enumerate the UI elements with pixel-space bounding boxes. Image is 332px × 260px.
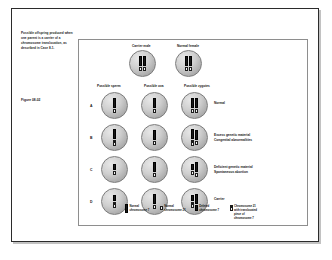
legend-item-2: Deleted chromosome 7 (195, 204, 225, 212)
chromosome-column (195, 130, 198, 144)
sperm-cell-row-c (101, 156, 128, 183)
chromosome-21-normal (191, 109, 194, 113)
chromosome-column (113, 164, 116, 175)
sperm-cell-row-d (101, 188, 128, 215)
chromosome-pair (185, 56, 188, 70)
parent-label-normal-female: Normal female (177, 44, 199, 49)
chromosome-21-normal (143, 67, 146, 71)
chromosome-7-normal (195, 130, 198, 140)
chromosome-7-normal (153, 194, 156, 204)
chromosome-21-normal (113, 171, 116, 175)
ova-cell-row-a (141, 92, 168, 119)
chromosome-pair (143, 56, 146, 70)
chromosome-7-normal (195, 98, 198, 108)
chromosome-21-normal (189, 67, 192, 71)
legend-label-0: Normal chromosome 7 (129, 204, 155, 212)
chromosome-7-normal (191, 129, 194, 139)
chromosome-column (153, 98, 156, 112)
chromosome-21-normal (195, 109, 198, 113)
chromosome-column (195, 162, 198, 176)
row-letter-d: D (90, 200, 92, 204)
legend: Normal chromosome 7Normal chromosome 21D… (125, 204, 260, 220)
chromosome-21-normal (185, 67, 188, 71)
row-letter-b: B (90, 136, 92, 140)
chromosome-21-translocated (191, 140, 194, 146)
chromosome-7-normal (113, 129, 116, 139)
sperm-cell-row-b (101, 124, 128, 151)
legend-item-0: Normal chromosome 7 (125, 204, 155, 213)
deleted-chromosome-7-swatch (195, 205, 198, 211)
column-header-possible-zygotes: Possible zygotes (184, 84, 210, 89)
figure-number-label: Figure 08-02 (21, 98, 73, 103)
row-letter-c: C (90, 168, 92, 172)
normal-chromosome-21-swatch (160, 206, 163, 210)
chromosome-7-normal (185, 56, 188, 66)
column-header-possible-sperm: Possible sperm (97, 84, 121, 89)
chromosome-21-normal (153, 109, 156, 113)
chromosome-column (113, 98, 116, 112)
figure-panel: Carrier male Normal female (78, 39, 308, 226)
chromosome-21-translocated (113, 140, 116, 146)
chromosome-pair (189, 56, 192, 70)
legend-label-1: Normal chromosome 21 (164, 204, 190, 212)
chromosome-7-normal (195, 162, 198, 172)
chromosome-7-normal (153, 130, 156, 140)
chromosome-column (113, 129, 116, 146)
chromosome-7-deleted (113, 195, 116, 201)
legend-label-3: Chromosome 21 with translocated piece of… (234, 204, 260, 220)
outcome-label-row-b: Excess genetic material Congenital abnor… (214, 133, 260, 143)
ova-cell-row-c (141, 156, 168, 183)
chromosome-7-normal (195, 194, 198, 204)
outcome-label-row-a: Normal (214, 101, 260, 106)
chromosome-7-normal (189, 56, 192, 66)
chromosome-21-normal (195, 141, 198, 145)
column-header-possible-ova: Possible ova (144, 84, 164, 89)
chromosome-21-normal (153, 173, 156, 177)
parent-cell-carrier-male (129, 50, 156, 77)
chromosome-21-normal (191, 171, 194, 175)
chromosome-7-normal (139, 56, 142, 66)
chromosome-7-normal (113, 98, 116, 108)
chromosome-pair (139, 56, 142, 70)
chromosome-7-deleted (113, 164, 116, 170)
zygote-cell-row-c (181, 156, 208, 183)
chromosome-21-normal (113, 109, 116, 113)
chromosome-7-normal (191, 98, 194, 108)
legend-label-2: Deleted chromosome 7 (199, 204, 225, 212)
parent-label-carrier-male: Carrier male (132, 44, 151, 49)
chromosome-column (195, 98, 198, 112)
chromosome-7-normal (143, 56, 146, 66)
parent-cell-normal-female (175, 50, 202, 77)
chromosome-column (191, 129, 194, 146)
zygote-cell-row-b (181, 124, 208, 151)
ova-cell-row-b (141, 124, 168, 151)
legend-item-3: Chromosome 21 with translocated piece of… (230, 204, 260, 220)
chromosome-7-normal (153, 162, 156, 172)
chromosome-column (191, 164, 194, 175)
translocated-chromosome-21-swatch (230, 205, 233, 211)
figure-caption: Possible offspring produced when one par… (21, 31, 73, 51)
slide-page: Possible offspring produced when one par… (11, 8, 319, 242)
chromosome-column (191, 98, 194, 112)
chromosome-column (153, 130, 156, 144)
outcome-label-row-d: Carrier (214, 197, 260, 202)
chromosome-21-normal (139, 67, 142, 71)
chromosome-7-normal (153, 98, 156, 108)
chromosome-7-deleted (191, 164, 194, 170)
chromosome-21-normal (195, 173, 198, 177)
chromosome-21-translocated (113, 202, 116, 208)
row-letter-a: A (90, 104, 92, 108)
chromosome-7-deleted (191, 195, 194, 201)
sperm-cell-row-a (101, 92, 128, 119)
chromosome-column (153, 162, 156, 176)
outcome-label-row-c: Deficient genetic material Spontaneous a… (214, 165, 260, 175)
zygote-cell-row-a (181, 92, 208, 119)
chromosome-column (113, 195, 116, 209)
chromosome-21-normal (153, 141, 156, 145)
normal-chromosome-7-swatch (125, 204, 128, 213)
legend-item-1: Normal chromosome 21 (160, 204, 190, 212)
